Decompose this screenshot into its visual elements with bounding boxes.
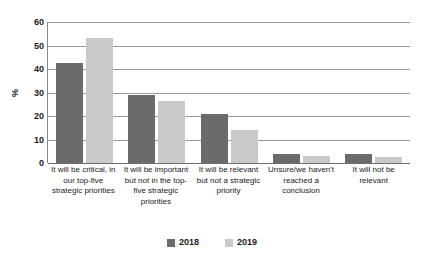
axis-baseline [48,163,410,164]
bar-2018[interactable] [201,114,228,163]
bar-2019[interactable] [375,157,402,163]
bar-2018[interactable] [273,154,300,163]
bar-group [120,22,192,163]
legend-swatch-icon [167,239,175,247]
y-axis-tick-label: 30 [34,88,44,98]
y-axis-tick-label: 20 [34,111,44,121]
bar-2019[interactable] [231,130,258,163]
y-axis-tick-label: 0 [39,158,44,168]
x-axis-label: It will be important but not in the top-… [120,165,193,207]
bar-group [338,22,410,163]
bar-2019[interactable] [86,38,113,163]
bar-chart: % 0102030405060 It will be critical, in … [0,0,424,269]
y-axis-tick-label: 10 [34,135,44,145]
bars-layer [48,22,410,163]
legend-swatch-icon [225,239,233,247]
bar-2018[interactable] [128,95,155,163]
chart-legend: 20182019 [0,238,424,247]
y-axis-tick-label: 60 [34,17,44,27]
y-axis-tick-label: 40 [34,64,44,74]
bar-2019[interactable] [158,101,185,163]
x-axis-label: It will be relevant but not a strategic … [192,165,265,197]
x-axis-label: It will be critical, in our top-five str… [47,165,120,197]
x-axis-label: It will not be relevant [337,165,410,186]
legend-item[interactable]: 2018 [167,238,199,247]
y-axis-tick-labels: 0102030405060 [22,17,46,163]
bar-2018[interactable] [56,63,83,163]
y-axis-tick-label: 50 [34,41,44,51]
plot-area [47,22,410,163]
bar-group [265,22,337,163]
legend-label: 2018 [179,238,199,247]
x-axis-label: Unsure/we haven't reached a conclusion [265,165,338,197]
bar-2018[interactable] [345,154,372,163]
bar-group [48,22,120,163]
bar-group [193,22,265,163]
legend-item[interactable]: 2019 [225,238,257,247]
legend-label: 2019 [237,238,257,247]
bar-2019[interactable] [303,156,330,163]
x-axis-category-labels: It will be critical, in our top-five str… [47,165,410,207]
